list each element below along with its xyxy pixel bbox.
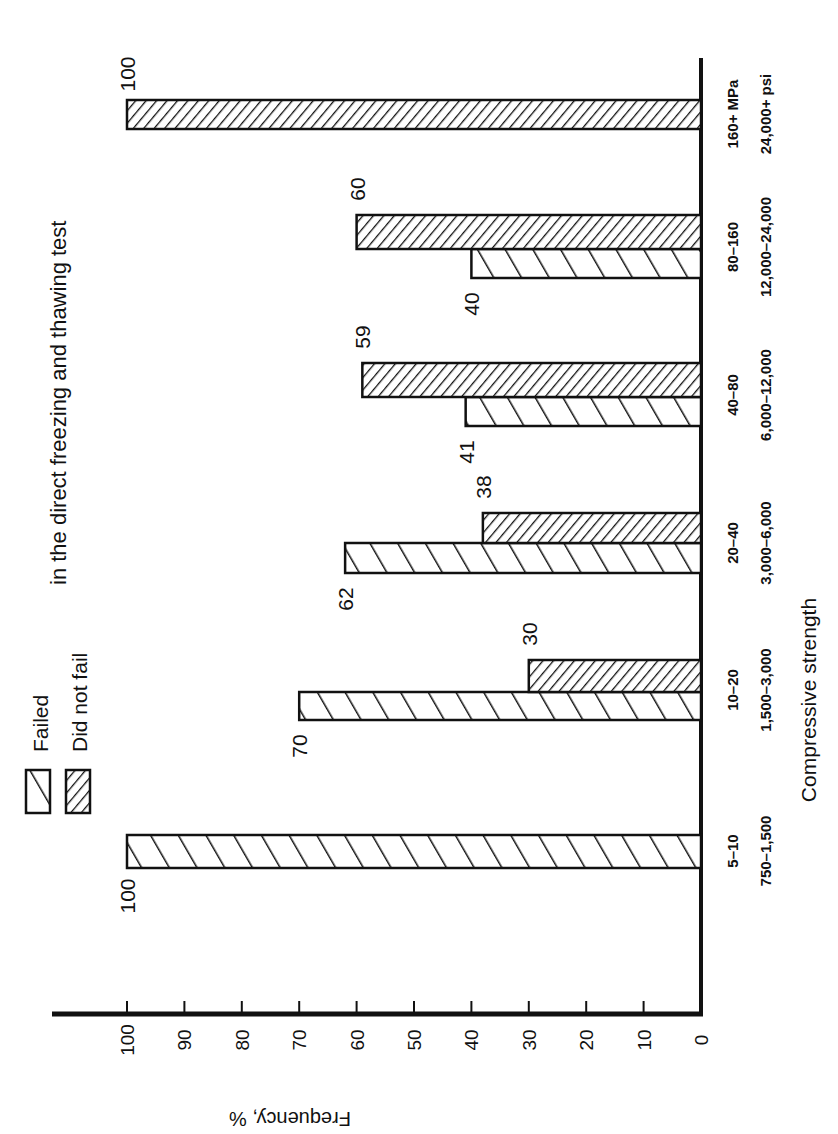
legend-label-did-not-fail: Did not fail <box>68 653 91 752</box>
tick-label: 40 <box>461 1029 482 1050</box>
bar-did-not-fail <box>357 215 701 249</box>
frequency-axis-title: Frequency, % <box>229 1108 351 1130</box>
bar-did-not-fail <box>529 660 701 692</box>
bar-did-not-fail <box>362 363 701 397</box>
legend: Failed Did not fail <box>26 653 91 813</box>
bar-failed <box>299 692 701 720</box>
category-label-mpa: 10–20 <box>724 669 741 711</box>
category-label-psi: 24,000+ psi <box>757 74 774 154</box>
category-label-mpa: 160+ MPa <box>724 79 741 148</box>
legend-swatch-failed <box>26 770 50 813</box>
legend-item-did-not-fail: Did not fail <box>66 653 91 813</box>
bar-value-label-failed: 41 <box>455 440 478 463</box>
tick-label: 70 <box>289 1029 310 1050</box>
bar-failed <box>471 249 701 278</box>
tick-label: 90 <box>174 1029 195 1050</box>
category-label-mpa: 5–10 <box>724 834 741 867</box>
category-label-mpa: 40–80 <box>724 374 741 416</box>
bar-value-label-did-not-fail: 60 <box>346 177 369 200</box>
legend-label-failed: Failed <box>29 695 52 752</box>
tick-label: 10 <box>634 1029 655 1050</box>
category-label-mpa: 20–40 <box>724 522 741 564</box>
bar-failed <box>466 397 701 426</box>
category-label-psi: 750–1,500 <box>757 816 774 887</box>
category-label-mpa: 80–160 <box>724 222 741 272</box>
bar-did-not-fail <box>127 100 701 129</box>
bar-value-label-did-not-fail: 100 <box>116 56 139 91</box>
category-label-psi: 1,500–3,000 <box>757 648 774 731</box>
bar-value-label-did-not-fail: 38 <box>472 475 495 498</box>
category-label-psi: 3,000–6,000 <box>757 501 774 584</box>
chart-canvas: 0102030405060708090100 10070306238415940… <box>0 0 838 1134</box>
category-axis-title: Compressive strength <box>797 598 820 802</box>
tick-label: 0 <box>691 1035 712 1046</box>
bar-value-labels: 1007030623841594060100 <box>116 56 541 913</box>
category-label-psi: 6,000–12,000 <box>757 349 774 441</box>
tick-label: 30 <box>519 1029 540 1050</box>
legend-item-failed: Failed <box>26 695 52 813</box>
frequency-ticks: 0102030405060708090100 <box>117 1001 712 1056</box>
bars <box>127 100 701 868</box>
category-labels: 5–10750–1,50010–201,500–3,00020–403,000–… <box>724 74 774 887</box>
category-label-psi: 12,000–24,000 <box>757 197 774 297</box>
bar-failed <box>127 835 701 868</box>
tick-label: 50 <box>404 1029 425 1050</box>
bar-value-label-did-not-fail: 59 <box>351 325 374 348</box>
legend-swatch-did-not-fail <box>66 770 90 813</box>
bar-failed <box>345 543 701 573</box>
bar-value-label-failed: 62 <box>334 587 357 610</box>
bar-did-not-fail <box>483 513 701 543</box>
tick-label: 60 <box>347 1029 368 1050</box>
tick-label: 100 <box>117 1024 138 1056</box>
bar-chart: 0102030405060708090100 10070306238415940… <box>0 0 838 1134</box>
tick-label: 20 <box>576 1029 597 1050</box>
bar-value-label-did-not-fail: 30 <box>518 622 541 645</box>
tick-label: 80 <box>232 1029 253 1050</box>
bar-value-label-failed: 70 <box>288 734 311 757</box>
bar-value-label-failed: 40 <box>460 292 483 315</box>
chart-title: in the direct freezing and thawing test <box>46 221 71 585</box>
bar-value-label-failed: 100 <box>116 878 139 913</box>
